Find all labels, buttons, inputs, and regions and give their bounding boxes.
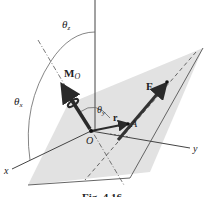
theta-z-arc xyxy=(51,32,95,61)
theta-z-label: θz xyxy=(62,18,70,32)
x-axis-label: x xyxy=(3,165,9,176)
diagram-svg: θz θx θy MO F r A O x y Fig. 4.16 xyxy=(0,0,206,197)
force-tip-dot xyxy=(165,80,169,84)
moment-diagram: θz θx θy MO F r A O x y Fig. 4.16 xyxy=(0,0,206,197)
theta-x-arc xyxy=(28,61,51,160)
figure-caption: Fig. 4.16 xyxy=(82,191,123,197)
position-label: r xyxy=(113,112,118,123)
theta-x-label: θx xyxy=(14,95,23,109)
origin-point xyxy=(89,129,93,133)
y-axis-label: y xyxy=(192,143,198,154)
point-a-label: A xyxy=(130,118,138,129)
force-label: F xyxy=(146,80,153,92)
origin-label: O xyxy=(86,135,93,146)
moment-label: MO xyxy=(64,67,80,81)
